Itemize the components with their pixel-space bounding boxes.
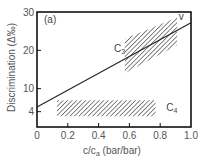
region-c3 [125,17,177,73]
y-tick-label: 20 [23,45,35,56]
y-tick-label: 10 [23,83,35,94]
region-label-sub: 3 [121,48,125,55]
y-tick-label: 4 [28,106,34,117]
x-tick-label: 0.2 [61,130,75,141]
region-label-c3: C3 [114,43,125,55]
annotation-text: v [179,11,184,22]
y-axis-label: Discrimination (Δ‰) [6,23,17,112]
hatched-regions [57,17,177,116]
x-axis-ticks: 00.20.40.60.81.0 [34,123,198,141]
panel-label: (a) [44,14,56,25]
chart: 00.20.40.60.81.0 4102030 (a) C3C4 v c/ca… [0,0,207,168]
y-tick-label: 30 [23,7,35,18]
x-tick-label: 0.8 [153,130,167,141]
region-label-main: C [166,102,173,113]
series-line [37,23,191,107]
x-axis-label-units: (bar/bar) [100,145,141,156]
region-label-main: C [114,43,121,54]
y-axis-ticks: 4102030 [23,7,41,118]
annotations: v [179,11,184,22]
x-tick-label: 1.0 [184,130,198,141]
region-label-c4: C4 [166,102,177,114]
x-axis-label-main: c/c [83,145,96,156]
region-c4 [57,100,156,116]
x-tick-label: 0 [34,130,40,141]
x-tick-label: 0.4 [92,130,106,141]
x-axis-label: c/ca (bar/bar) [83,145,141,157]
region-label-sub: 4 [174,107,178,114]
x-tick-label: 0.6 [122,130,136,141]
